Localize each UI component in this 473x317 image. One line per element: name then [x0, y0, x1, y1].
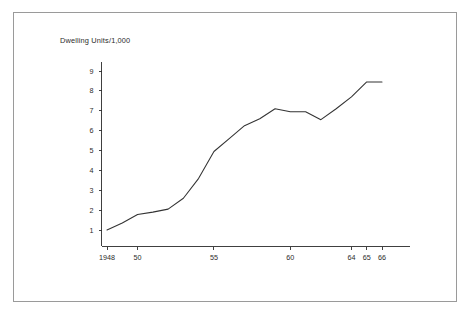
figure-root: 123456789 1948505560646566 Dwelling Unit…	[0, 0, 473, 317]
x-axis-ticks	[107, 247, 382, 251]
x-axis-tick-labels: 1948505560646566	[99, 253, 386, 262]
x-tick-label: 64	[347, 253, 355, 262]
y-axis-tick-labels: 123456789	[90, 67, 94, 235]
y-tick-label: 6	[90, 126, 94, 135]
y-tick-label: 7	[90, 106, 94, 115]
y-tick-label: 5	[90, 146, 94, 155]
x-tick-label: 50	[134, 253, 142, 262]
line-chart: 123456789 1948505560646566 Dwelling Unit…	[0, 0, 473, 317]
x-tick-label: 1948	[99, 253, 115, 262]
y-tick-label: 1	[90, 226, 94, 235]
y-tick-label: 3	[90, 186, 94, 195]
x-tick-label: 65	[363, 253, 371, 262]
y-tick-label: 4	[90, 166, 94, 175]
y-tick-label: 2	[90, 206, 94, 215]
data-series-line	[107, 82, 382, 230]
chart-header-label: Dwelling Units/1,000	[60, 36, 130, 45]
x-tick-label: 66	[378, 253, 386, 262]
chart-axes	[102, 62, 411, 247]
y-tick-label: 8	[90, 86, 94, 95]
x-tick-label: 60	[286, 253, 294, 262]
y-tick-label: 9	[90, 67, 94, 76]
x-tick-label: 55	[210, 253, 218, 262]
